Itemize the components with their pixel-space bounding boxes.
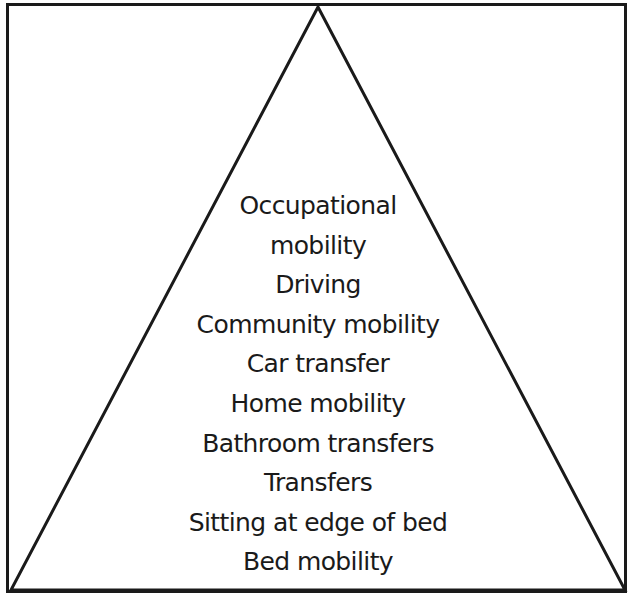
level-sitting-at-edge-of-bed: Sitting at edge of bed <box>118 503 518 543</box>
level-bathroom-transfers: Bathroom transfers <box>118 424 518 464</box>
level-home-mobility: Home mobility <box>118 384 518 424</box>
level-bed-mobility: Bed mobility <box>118 542 518 582</box>
level-car-transfer: Car transfer <box>118 344 518 384</box>
level-occupational-mobility-line2: mobility <box>118 226 518 266</box>
pyramid-diagram: Occupational mobility Driving Community … <box>0 0 629 597</box>
level-driving: Driving <box>118 265 518 305</box>
pyramid-labels: Occupational mobility Driving Community … <box>118 186 518 582</box>
level-occupational-mobility-line1: Occupational <box>118 186 518 226</box>
level-transfers: Transfers <box>118 463 518 503</box>
level-community-mobility: Community mobility <box>118 305 518 345</box>
